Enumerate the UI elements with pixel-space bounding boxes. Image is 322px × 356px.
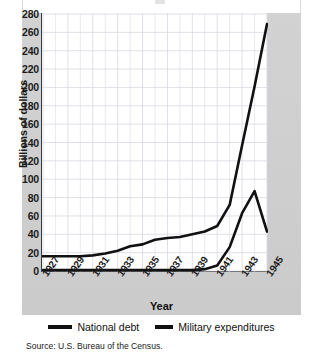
y-axis-title: Billions of dollars xyxy=(17,39,29,209)
y-tick-label: 260 xyxy=(5,27,39,37)
chart-legend: National debtMilitary expenditures xyxy=(22,319,301,335)
y-tick-label: 0 xyxy=(5,266,39,276)
y-tick-label: 40 xyxy=(5,229,39,239)
plot-area xyxy=(41,13,267,272)
legend-line-swatch-icon xyxy=(48,325,72,328)
figure-top-strip xyxy=(0,0,322,13)
chart-svg xyxy=(42,13,268,272)
chart-figure: 020406080100120140160180200220240260280 … xyxy=(0,0,322,356)
legend-item: National debt xyxy=(48,321,139,333)
legend-item: Military expenditures xyxy=(155,321,274,333)
source-note: Source: U.S. Bureau of the Census. xyxy=(26,341,316,351)
x-axis-title: Year xyxy=(22,300,301,312)
top-rule-right xyxy=(300,0,301,13)
legend-label: Military expenditures xyxy=(178,321,274,333)
legend-line-swatch-icon xyxy=(155,325,173,328)
y-tick-label: 20 xyxy=(5,248,39,258)
y-tick-label: 280 xyxy=(5,9,39,19)
cropped-title-remnant xyxy=(155,0,165,4)
legend-label: National debt xyxy=(77,321,139,333)
y-tick-label: 60 xyxy=(5,211,39,221)
